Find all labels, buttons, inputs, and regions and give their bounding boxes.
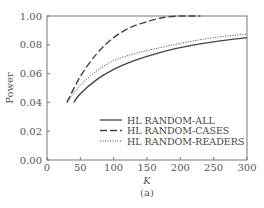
x-tick-label: 150 [137, 162, 156, 173]
x-tick-label: 200 [171, 162, 190, 173]
legend-label: HL RANDOM-CASES [127, 125, 229, 136]
series-line-2 [67, 34, 247, 102]
x-tick-label: 250 [204, 162, 223, 173]
x-tick-label: 100 [104, 162, 123, 173]
series-line-1 [67, 16, 200, 102]
axes: 0501001502002503000.000.020.040.060.081.… [20, 11, 257, 174]
legend: HL RANDOM-ALLHL RANDOM-CASESHL RANDOM-RE… [100, 115, 244, 147]
y-tick-label: 0.00 [20, 155, 42, 166]
series-line-0 [74, 38, 247, 103]
power-chart: 0501001502002503000.000.020.040.060.081.… [0, 0, 264, 208]
x-axis-label: K [142, 175, 151, 186]
y-tick-label: 0.04 [20, 97, 42, 108]
y-tick-label: 0.08 [20, 39, 42, 50]
y-axis-label: Power [4, 72, 15, 104]
legend-label: HL RANDOM-ALL [127, 115, 215, 126]
x-tick-label: 300 [237, 162, 256, 173]
legend-label: HL RANDOM-READERS [127, 136, 244, 147]
figure-caption: (a) [140, 187, 154, 198]
series-layer [67, 16, 247, 102]
y-tick-label: 1.00 [20, 11, 42, 22]
x-tick-label: 0 [44, 162, 50, 173]
x-tick-label: 50 [74, 162, 87, 173]
y-tick-label: 0.06 [20, 68, 42, 79]
y-tick-label: 0.02 [20, 126, 42, 137]
